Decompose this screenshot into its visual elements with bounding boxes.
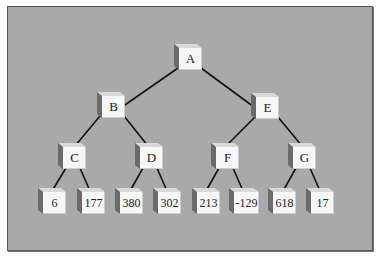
leaf-label: 302 <box>158 192 181 214</box>
edge-b-d <box>124 116 148 146</box>
node-label: D <box>140 147 163 169</box>
leaf-node: -129 <box>229 188 259 214</box>
node-label: B <box>102 96 125 118</box>
edge-a-b <box>122 68 178 107</box>
leaf-label: 6 <box>43 192 66 214</box>
leaf-node: 6 <box>38 188 66 214</box>
leaf-node: 17 <box>306 188 334 214</box>
leaf-node: 213 <box>192 188 220 214</box>
node-g: G <box>288 143 316 169</box>
node-label: A <box>179 48 202 70</box>
node-c: C <box>58 143 86 169</box>
node-a: A <box>174 44 202 70</box>
node-label: G <box>293 147 316 169</box>
edge-e-g <box>278 117 302 146</box>
node-label: F <box>216 147 239 169</box>
leaf-label: 380 <box>120 192 143 214</box>
leaf-label: 177 <box>82 192 105 214</box>
leaf-label: -129 <box>234 192 259 214</box>
node-label: C <box>63 147 86 169</box>
leaf-node: 177 <box>77 188 105 214</box>
edge-e-f <box>226 117 255 146</box>
edge-b-c <box>75 116 100 146</box>
node-b: B <box>97 92 125 118</box>
node-f: F <box>211 143 239 169</box>
node-label: E <box>256 97 279 119</box>
tree-edges <box>0 0 380 263</box>
leaf-label: 618 <box>273 192 296 214</box>
node-d: D <box>135 143 163 169</box>
leaf-node: 380 <box>115 188 143 214</box>
leaf-label: 213 <box>197 192 220 214</box>
edge-a-e <box>201 68 254 107</box>
node-e: E <box>251 93 279 119</box>
leaf-label: 17 <box>311 192 334 214</box>
leaf-node: 618 <box>268 188 296 214</box>
leaf-node: 302 <box>153 188 181 214</box>
